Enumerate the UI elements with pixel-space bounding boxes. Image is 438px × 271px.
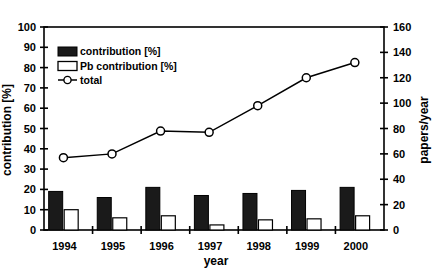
- right-tick-label: 100: [393, 97, 411, 109]
- left-axis-title: contribution [%]: [0, 84, 14, 176]
- legend-swatch-contribution: [58, 47, 77, 56]
- right-axis-title: papers/year: [417, 96, 431, 164]
- category-label: 1996: [149, 240, 173, 252]
- left-tick-label: 20: [24, 183, 36, 195]
- left-tick-label: 80: [24, 62, 36, 74]
- left-tick-label: 60: [24, 102, 36, 114]
- right-tick-label: 80: [393, 123, 405, 135]
- bar-contribution: [49, 191, 63, 230]
- legend-label: contribution [%]: [80, 45, 160, 57]
- category-label: 1995: [101, 240, 125, 252]
- right-tick-label: 40: [393, 173, 405, 185]
- legend-swatch-pb-contribution: [58, 62, 77, 71]
- bar-contribution: [97, 198, 111, 230]
- category-label: 1999: [295, 240, 319, 252]
- left-tick-label: 0: [30, 224, 36, 236]
- total-line-marker: [157, 127, 165, 135]
- chart-container: 0102030405060708090100 02040608010012014…: [0, 0, 438, 271]
- category-label: 2000: [344, 240, 368, 252]
- bar-pb-contribution: [210, 225, 224, 230]
- bar-pb-contribution: [113, 218, 127, 230]
- right-tick-label: 120: [393, 72, 411, 84]
- chart-svg: 0102030405060708090100 02040608010012014…: [0, 0, 438, 271]
- category-label: 1997: [198, 240, 222, 252]
- right-tick-label: 160: [393, 21, 411, 33]
- total-line-marker: [254, 102, 262, 110]
- bar-contribution: [340, 187, 354, 230]
- bar-pb-contribution: [161, 216, 175, 230]
- category-label: 1998: [246, 240, 270, 252]
- total-line-marker: [351, 59, 359, 67]
- legend-swatch-total-marker: [64, 76, 71, 83]
- left-tick-label: 100: [18, 21, 36, 33]
- category-label: 1994: [52, 240, 77, 252]
- total-line-marker: [302, 74, 310, 82]
- bar-contribution: [146, 187, 160, 230]
- bar-pb-contribution: [258, 220, 272, 230]
- left-tick-label: 10: [24, 204, 36, 216]
- total-line-marker: [59, 154, 67, 162]
- right-tick-label: 60: [393, 148, 405, 160]
- bar-contribution: [194, 195, 208, 230]
- right-tick-label: 0: [393, 224, 399, 236]
- left-tick-label: 50: [24, 123, 36, 135]
- bar-pb-contribution: [307, 219, 321, 230]
- right-tick-label: 20: [393, 199, 405, 211]
- total-line-marker: [108, 150, 116, 158]
- total-line-marker: [205, 128, 213, 136]
- right-tick-label: 140: [393, 46, 411, 58]
- left-tick-label: 30: [24, 163, 36, 175]
- bar-contribution: [292, 190, 306, 230]
- left-tick-label: 40: [24, 143, 36, 155]
- bar-pb-contribution: [64, 210, 78, 230]
- bar-contribution: [243, 193, 257, 230]
- legend-label: Pb contribution [%]: [80, 60, 177, 72]
- x-axis-title: year: [204, 254, 229, 268]
- legend-label: total: [80, 74, 102, 86]
- left-tick-label: 90: [24, 41, 36, 53]
- bar-pb-contribution: [356, 216, 370, 230]
- left-tick-label: 70: [24, 82, 36, 94]
